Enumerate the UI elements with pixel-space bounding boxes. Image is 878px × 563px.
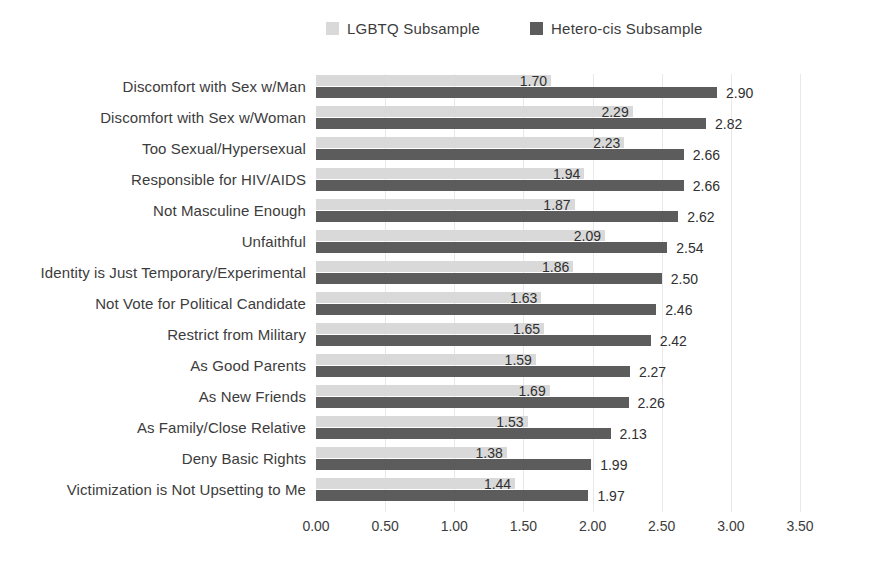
bar-hetero-cis: 2.62 <box>316 211 678 222</box>
value-label-hetero-cis: 2.82 <box>715 117 742 131</box>
x-tick-label: 2.00 <box>579 518 606 534</box>
bar-group: 1.59 2.27 <box>316 354 800 377</box>
bar-group: 1.69 2.26 <box>316 385 800 408</box>
chart-row: Too Sexual/Hypersexual 2.23 2.66 <box>0 133 800 164</box>
x-tick-label: 3.50 <box>786 518 813 534</box>
bar-hetero-cis: 1.97 <box>316 490 588 501</box>
bar-hetero-cis: 2.26 <box>316 397 629 408</box>
chart-row: Discomfort with Sex w/Man 1.70 2.90 <box>0 71 800 102</box>
bar-group: 1.86 2.50 <box>316 261 800 284</box>
value-label-hetero-cis: 2.90 <box>726 86 753 100</box>
x-tick-label: 0.00 <box>302 518 329 534</box>
chart-row: Discomfort with Sex w/Woman 2.29 2.82 <box>0 102 800 133</box>
value-label-lgbtq: 2.09 <box>574 229 601 243</box>
bar-group: 1.65 2.42 <box>316 323 800 346</box>
value-label-lgbtq: 2.23 <box>593 136 620 150</box>
value-label-hetero-cis: 2.66 <box>693 179 720 193</box>
plot-area: Discomfort with Sex w/Man 1.70 2.90 Disc… <box>0 71 800 505</box>
bar-hetero-cis: 2.13 <box>316 428 611 439</box>
bar-group: 1.44 1.97 <box>316 478 800 501</box>
category-label: Discomfort with Sex w/Woman <box>0 109 316 126</box>
chart-row: Not Vote for Political Candidate 1.63 2.… <box>0 288 800 319</box>
legend-label-lgbtq: LGBTQ Subsample <box>347 20 480 37</box>
value-label-lgbtq: 1.44 <box>484 477 511 491</box>
category-label: As Good Parents <box>0 357 316 374</box>
bar-chart: LGBTQ Subsample Hetero-cis Subsample Dis… <box>0 0 878 563</box>
value-label-lgbtq: 1.65 <box>513 322 540 336</box>
bar-lgbtq: 1.63 <box>316 292 541 303</box>
value-label-hetero-cis: 2.13 <box>620 427 647 441</box>
chart-row: Not Masculine Enough 1.87 2.62 <box>0 195 800 226</box>
bar-group: 2.29 2.82 <box>316 106 800 129</box>
bar-group: 1.94 2.66 <box>316 168 800 191</box>
bar-hetero-cis: 2.27 <box>316 366 630 377</box>
value-label-lgbtq: 1.53 <box>496 415 523 429</box>
value-label-hetero-cis: 2.66 <box>693 148 720 162</box>
bar-group: 1.87 2.62 <box>316 199 800 222</box>
category-label: Restrict from Military <box>0 326 316 343</box>
bar-lgbtq: 1.86 <box>316 261 573 272</box>
bar-lgbtq: 2.09 <box>316 230 605 241</box>
value-label-lgbtq: 1.69 <box>518 384 545 398</box>
value-label-hetero-cis: 2.27 <box>639 365 666 379</box>
legend-item-lgbtq: LGBTQ Subsample <box>326 20 480 37</box>
bar-group: 2.09 2.54 <box>316 230 800 253</box>
bar-hetero-cis: 2.66 <box>316 180 684 191</box>
legend: LGBTQ Subsample Hetero-cis Subsample <box>326 20 703 37</box>
value-label-hetero-cis: 2.62 <box>687 210 714 224</box>
bar-hetero-cis: 2.50 <box>316 273 662 284</box>
bar-lgbtq: 2.23 <box>316 137 624 148</box>
x-tick-label: 1.50 <box>510 518 537 534</box>
legend-swatch-lgbtq-icon <box>326 22 339 35</box>
x-tick-label: 0.50 <box>372 518 399 534</box>
bar-lgbtq: 1.94 <box>316 168 584 179</box>
bar-hetero-cis: 2.66 <box>316 149 684 160</box>
bar-lgbtq: 2.29 <box>316 106 633 117</box>
value-label-hetero-cis: 2.26 <box>638 396 665 410</box>
x-tick-label: 3.00 <box>717 518 744 534</box>
category-label: Too Sexual/Hypersexual <box>0 140 316 157</box>
category-label: Discomfort with Sex w/Man <box>0 78 316 95</box>
chart-row: As Good Parents 1.59 2.27 <box>0 350 800 381</box>
chart-row: Unfaithful 2.09 2.54 <box>0 226 800 257</box>
chart-row: Restrict from Military 1.65 2.42 <box>0 319 800 350</box>
bar-hetero-cis: 2.54 <box>316 242 667 253</box>
value-label-hetero-cis: 1.97 <box>597 489 624 503</box>
bar-lgbtq: 1.69 <box>316 385 550 396</box>
bar-hetero-cis: 2.46 <box>316 304 656 315</box>
bar-lgbtq: 1.53 <box>316 416 528 427</box>
chart-row: Identity is Just Temporary/Experimental … <box>0 257 800 288</box>
category-label: Responsible for HIV/AIDS <box>0 171 316 188</box>
value-label-lgbtq: 1.59 <box>505 353 532 367</box>
gridline <box>800 74 801 512</box>
legend-swatch-hetero-cis-icon <box>530 22 543 35</box>
bar-lgbtq: 1.38 <box>316 447 507 458</box>
category-label: Victimization is Not Upsetting to Me <box>0 481 316 498</box>
bar-lgbtq: 1.59 <box>316 354 536 365</box>
value-label-hetero-cis: 2.50 <box>671 272 698 286</box>
category-label: Unfaithful <box>0 233 316 250</box>
bar-hetero-cis: 2.82 <box>316 118 706 129</box>
x-axis: 0.000.501.001.502.002.503.003.50 <box>316 518 800 536</box>
category-label: Deny Basic Rights <box>0 450 316 467</box>
bar-hetero-cis: 2.90 <box>316 87 717 98</box>
bar-lgbtq: 1.87 <box>316 199 575 210</box>
value-label-hetero-cis: 2.46 <box>665 303 692 317</box>
chart-row: As Family/Close Relative 1.53 2.13 <box>0 412 800 443</box>
chart-row: Deny Basic Rights 1.38 1.99 <box>0 443 800 474</box>
value-label-lgbtq: 2.29 <box>601 105 628 119</box>
bar-group: 1.38 1.99 <box>316 447 800 470</box>
chart-row: Victimization is Not Upsetting to Me 1.4… <box>0 474 800 505</box>
legend-label-hetero-cis: Hetero-cis Subsample <box>551 20 703 37</box>
category-label: As New Friends <box>0 388 316 405</box>
category-label: Not Masculine Enough <box>0 202 316 219</box>
value-label-hetero-cis: 1.99 <box>600 458 627 472</box>
bar-lgbtq: 1.44 <box>316 478 515 489</box>
chart-row: As New Friends 1.69 2.26 <box>0 381 800 412</box>
x-tick-label: 1.00 <box>441 518 468 534</box>
bar-group: 2.23 2.66 <box>316 137 800 160</box>
bar-group: 1.53 2.13 <box>316 416 800 439</box>
bar-lgbtq: 1.70 <box>316 75 551 86</box>
value-label-lgbtq: 1.38 <box>476 446 503 460</box>
bar-group: 1.63 2.46 <box>316 292 800 315</box>
